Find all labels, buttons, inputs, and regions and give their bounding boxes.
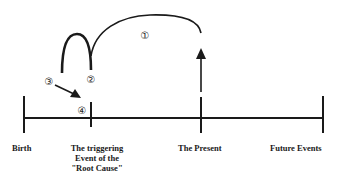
arrow-3-to-4-shaft — [55, 85, 74, 94]
label-present: The Present — [178, 143, 222, 153]
marker-4: ④ — [78, 106, 87, 116]
label-trigger-line-1: The triggering — [65, 143, 129, 153]
label-present-text: The Present — [178, 143, 222, 153]
label-future-text: Future Events — [270, 143, 322, 153]
label-trigger-line-2: Event of the — [65, 153, 129, 163]
label-future: Future Events — [270, 143, 322, 153]
marker-2: ② — [87, 75, 96, 85]
label-trigger: The triggering Event of the "Root Cause" — [65, 143, 129, 173]
marker-1: ① — [141, 31, 150, 41]
label-birth-text: Birth — [12, 143, 31, 153]
small-arch — [62, 34, 91, 73]
label-birth: Birth — [12, 143, 31, 153]
timeline-diagram — [0, 0, 347, 182]
present-arrowhead-icon — [196, 48, 206, 59]
marker-3: ③ — [45, 77, 54, 87]
label-trigger-line-3: "Root Cause" — [65, 163, 129, 173]
